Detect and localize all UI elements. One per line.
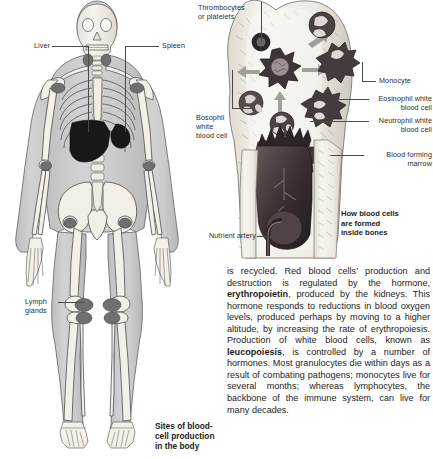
skull bbox=[77, 4, 117, 58]
basophil-leader-horizontal bbox=[232, 108, 252, 109]
label-basophil: Bosophil white blood cell bbox=[196, 113, 246, 141]
thrombocytes-leader-vertical bbox=[261, 2, 262, 42]
label-nutrient-artery: Nutrient artery bbox=[198, 231, 256, 240]
article-body-text: is recycled. Red blood cells’ production… bbox=[227, 266, 430, 416]
feet bbox=[60, 422, 135, 448]
page-root: Liver Spleen Lymph glands Sites of blood… bbox=[0, 0, 433, 459]
spleen-leader-line bbox=[125, 46, 159, 47]
caption-how-blood-cells-are-formed: How blood cells are formed inside bones bbox=[341, 209, 431, 238]
monocyte-leader-vertical bbox=[362, 62, 363, 82]
liver-leader-line bbox=[52, 46, 88, 47]
basophil-cell bbox=[239, 91, 263, 115]
monocyte-leader-horizontal bbox=[362, 81, 376, 82]
label-lymph-glands: Lymph glands bbox=[25, 297, 65, 315]
blood-forming-marrow bbox=[255, 125, 312, 249]
label-neutrophil: Neutrophil white blood cell bbox=[358, 116, 432, 134]
term-leucopoiesis: leucopoiesis bbox=[227, 347, 282, 357]
cortical-bone-wall-left bbox=[240, 150, 258, 258]
skeleton-illustration bbox=[0, 0, 218, 459]
sternum bbox=[93, 78, 102, 126]
spleen-leader-line-vertical bbox=[125, 46, 126, 132]
label-blood-forming-marrow: Blood forming marrow bbox=[366, 150, 432, 168]
blood-forming-marrow-leader-line bbox=[330, 155, 364, 156]
monocyte-cell bbox=[309, 12, 335, 38]
term-erythropoietin: erythropoietin bbox=[227, 289, 288, 299]
label-monocyte: Monocyte bbox=[379, 76, 431, 85]
skeleton-figure bbox=[0, 0, 218, 459]
caption-sites-of-blood-cell-production: Sites of blood- cell production in the b… bbox=[155, 421, 227, 452]
body-paragraph: is recycled. Red blood cells’ production… bbox=[227, 266, 430, 416]
nutrient-artery-leader-line bbox=[257, 236, 269, 237]
label-spleen: Spleen bbox=[162, 41, 210, 50]
label-thrombocytes: Thrombocytes or platelets bbox=[198, 3, 260, 21]
cortical-bone-wall bbox=[314, 140, 342, 258]
basophil-leader-vertical bbox=[232, 70, 233, 108]
label-eosinophil: Eosinophil white blood cell bbox=[358, 94, 432, 112]
body-part-1: is recycled. Red blood cells’ production… bbox=[227, 266, 430, 288]
liver-leader-line-vertical bbox=[88, 46, 89, 132]
label-liver: Liver bbox=[6, 41, 50, 50]
